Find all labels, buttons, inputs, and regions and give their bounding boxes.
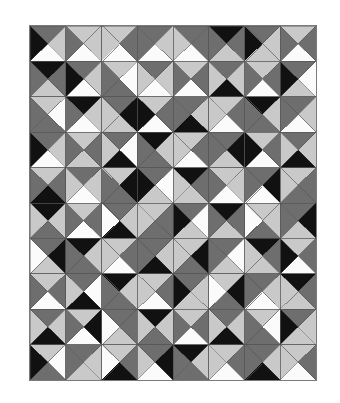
quilt-cell [102, 238, 138, 273]
quilt-cell [173, 203, 209, 238]
quilt-cell [102, 203, 138, 238]
quilt-cell [280, 97, 316, 132]
quilt-cell [280, 26, 316, 61]
quilt-cell [66, 345, 102, 380]
artwork-page [0, 0, 340, 403]
quilt-cell [102, 97, 138, 132]
quilt-cell [30, 168, 66, 203]
quilt-pattern-grid [30, 26, 316, 380]
quilt-cell [66, 238, 102, 273]
quilt-cell [66, 26, 102, 61]
quilt-cell [245, 309, 281, 344]
quilt-cell [280, 61, 316, 96]
quilt-cell [209, 274, 245, 309]
quilt-cell [173, 132, 209, 167]
quilt-cell [280, 238, 316, 273]
quilt-cell [209, 203, 245, 238]
quilt-cell [245, 132, 281, 167]
quilt-cell [245, 203, 281, 238]
quilt-cell [137, 203, 173, 238]
quilt-cell [102, 168, 138, 203]
quilt-cell [66, 168, 102, 203]
quilt-cell [173, 238, 209, 273]
quilt-cell [245, 168, 281, 203]
quilt-cell [209, 345, 245, 380]
quilt-cell [173, 168, 209, 203]
quilt-cell [137, 274, 173, 309]
quilt-cell [66, 309, 102, 344]
quilt-cell [102, 61, 138, 96]
quilt-cell [209, 132, 245, 167]
quilt-cell [102, 26, 138, 61]
quilt-cell [209, 97, 245, 132]
quilt-cell [245, 61, 281, 96]
quilt-cell [66, 132, 102, 167]
quilt-cell [137, 168, 173, 203]
quilt-cell [280, 274, 316, 309]
quilt-cell [209, 26, 245, 61]
quilt-cell [30, 345, 66, 380]
quilt-cell [280, 132, 316, 167]
quilt-cell [137, 97, 173, 132]
quilt-cell [209, 61, 245, 96]
quilt-cell [137, 345, 173, 380]
quilt-cell [137, 26, 173, 61]
quilt-cell [102, 132, 138, 167]
quilt-cell [173, 309, 209, 344]
quilt-cell [173, 26, 209, 61]
quilt-cell [102, 274, 138, 309]
artwork-frame [29, 25, 317, 381]
quilt-cell [173, 345, 209, 380]
quilt-cell [137, 238, 173, 273]
quilt-cell [66, 97, 102, 132]
quilt-cell [66, 61, 102, 96]
quilt-cell [209, 168, 245, 203]
quilt-cell [280, 203, 316, 238]
quilt-cell [66, 203, 102, 238]
quilt-cell [245, 26, 281, 61]
quilt-cell [137, 132, 173, 167]
quilt-cell [280, 309, 316, 344]
quilt-cell [245, 97, 281, 132]
quilt-cell [30, 26, 66, 61]
quilt-cell [30, 274, 66, 309]
quilt-cell [173, 274, 209, 309]
quilt-cell [280, 168, 316, 203]
quilt-cell [102, 345, 138, 380]
quilt-cell [30, 238, 66, 273]
quilt-cell [102, 309, 138, 344]
quilt-cell [30, 203, 66, 238]
quilt-cell [245, 238, 281, 273]
quilt-cell [66, 274, 102, 309]
quilt-cell [137, 61, 173, 96]
quilt-cell [245, 274, 281, 309]
quilt-cell [30, 132, 66, 167]
quilt-cell [30, 309, 66, 344]
quilt-cell [245, 345, 281, 380]
quilt-cell [30, 97, 66, 132]
quilt-cell [280, 345, 316, 380]
quilt-cell [173, 97, 209, 132]
quilt-cell [209, 309, 245, 344]
quilt-cell [209, 238, 245, 273]
quilt-cell [30, 61, 66, 96]
quilt-cell [173, 61, 209, 96]
quilt-cell [137, 309, 173, 344]
